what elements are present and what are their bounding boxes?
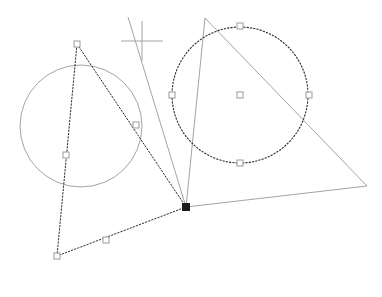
handle-south[interactable]: [237, 160, 243, 166]
geometry-drawing-surface[interactable]: [0, 0, 382, 297]
handle-west[interactable]: [169, 92, 175, 98]
midpoint-apex-right[interactable]: [133, 122, 139, 128]
handle-north[interactable]: [237, 23, 243, 29]
crosshair-cursor: [121, 21, 163, 61]
geometry-canvas[interactable]: [0, 0, 382, 297]
selected-triangle[interactable]: [57, 44, 186, 256]
outline-triangle[interactable]: [186, 18, 367, 207]
left-circle[interactable]: [20, 65, 142, 187]
vertex-right[interactable]: [183, 204, 190, 211]
midpoint-bottom-apex[interactable]: [63, 152, 69, 158]
construction-line[interactable]: [128, 17, 186, 207]
handle-center[interactable]: [237, 92, 243, 98]
handle-east[interactable]: [306, 92, 312, 98]
midpoint-right-bottom[interactable]: [103, 237, 109, 243]
vertex-bottom-left[interactable]: [54, 253, 60, 259]
selected-triangle-handles[interactable]: [54, 41, 190, 259]
vertex-apex[interactable]: [74, 41, 80, 47]
right-circle-handles[interactable]: [169, 23, 312, 166]
